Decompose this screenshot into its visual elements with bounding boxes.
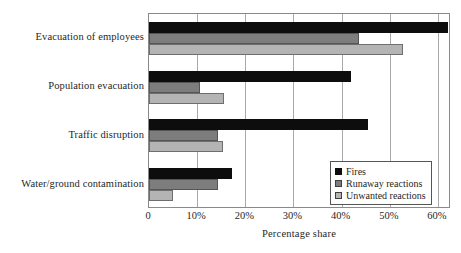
bar-group	[149, 22, 449, 55]
legend-label: Runaway reactions	[346, 178, 422, 189]
bar-chart: Evacuation of employeesPopulation evacua…	[0, 0, 461, 253]
legend-label: Fires	[346, 166, 366, 177]
bar	[149, 190, 173, 201]
legend-swatch-icon	[335, 168, 342, 175]
category-label: Population evacuation	[0, 80, 144, 91]
bar	[149, 33, 359, 44]
category-label: Traffic disruption	[0, 129, 144, 140]
legend-label: Unwanted reactions	[346, 190, 426, 201]
bar	[149, 71, 351, 82]
bar	[149, 130, 218, 141]
category-label: Water/ground contamination	[0, 178, 144, 189]
value-axis-ticks: 010%20%30%40%50%60%	[148, 209, 450, 225]
category-label: Evacuation of employees	[0, 31, 144, 42]
x-tick-label: 30%	[283, 209, 302, 223]
legend-item: Unwanted reactions	[335, 189, 426, 201]
bar	[149, 119, 368, 130]
bar	[149, 44, 403, 55]
bar	[149, 22, 448, 33]
bar	[149, 168, 232, 179]
legend-item: Fires	[335, 165, 426, 177]
x-tick-label: 0	[145, 209, 150, 223]
bar-group	[149, 119, 449, 152]
x-tick-label: 40%	[331, 209, 350, 223]
category-axis-labels: Evacuation of employeesPopulation evacua…	[0, 13, 144, 208]
x-axis-title: Percentage share	[148, 228, 450, 239]
bar	[149, 93, 224, 104]
bar	[149, 179, 218, 190]
x-tick-label: 10%	[187, 209, 206, 223]
x-tick-label: 20%	[235, 209, 254, 223]
bar	[149, 141, 223, 152]
x-tick-label: 60%	[427, 209, 446, 223]
x-tick-label: 50%	[379, 209, 398, 223]
legend-swatch-icon	[335, 180, 342, 187]
bar-group	[149, 71, 449, 104]
bar	[149, 82, 200, 93]
legend-swatch-icon	[335, 192, 342, 199]
legend-item: Runaway reactions	[335, 177, 426, 189]
chart-legend: FiresRunaway reactionsUnwanted reactions	[330, 161, 432, 205]
